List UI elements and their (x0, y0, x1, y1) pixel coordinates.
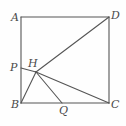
vertex-label-Q: Q (59, 105, 68, 116)
vertex-dot-H (35, 71, 37, 73)
segment-HQ (36, 72, 62, 103)
vertex-label-H: H (28, 58, 38, 69)
segment-HB (21, 72, 36, 103)
segment-HC (36, 72, 109, 103)
geometry-figure: A D B C P H Q (0, 0, 126, 126)
segment-HD (36, 17, 109, 72)
vertex-dot-group (35, 71, 37, 73)
vertex-label-A: A (11, 12, 19, 23)
vertex-label-D: D (111, 10, 120, 21)
vertex-label-B: B (11, 99, 19, 110)
vertex-label-P: P (10, 62, 17, 73)
vertex-label-C: C (111, 99, 119, 110)
